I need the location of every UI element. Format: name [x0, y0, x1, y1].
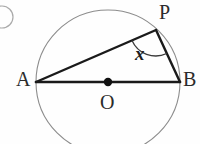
- geometry-figure: A B P O x: [0, 0, 200, 144]
- center-label-o: O: [100, 92, 114, 112]
- question-number-bullet: [0, 6, 13, 28]
- vertex-label-p: P: [159, 2, 170, 22]
- angle-label-x: x: [135, 44, 145, 63]
- vertex-label-b: B: [183, 69, 196, 89]
- vertex-label-a: A: [16, 69, 30, 89]
- circle-outline: [36, 10, 180, 144]
- center-point-dot: [104, 78, 112, 86]
